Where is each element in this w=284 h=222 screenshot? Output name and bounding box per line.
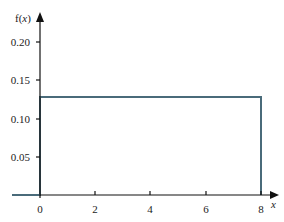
y-tick-label: 0.05 [11,151,31,163]
x-tick-label: 4 [147,203,153,215]
x-tick-label: 6 [203,203,209,215]
x-tick-label: 2 [92,203,98,215]
x-tick-label: 0 [37,203,43,215]
y-tick-label: 0.15 [11,74,31,86]
chart: 0.05 0.10 0.15 0.20 0 2 4 6 8 f(x) x [0,0,284,222]
y-axis-arrow-icon [36,12,44,22]
y-axis-label: f(x) [15,12,31,25]
y-tick-label: 0.10 [11,113,31,125]
x-axis-label: x [270,198,276,210]
density-line [12,97,261,195]
x-tick-label: 8 [258,203,264,215]
y-tick-label: 0.20 [11,36,31,48]
